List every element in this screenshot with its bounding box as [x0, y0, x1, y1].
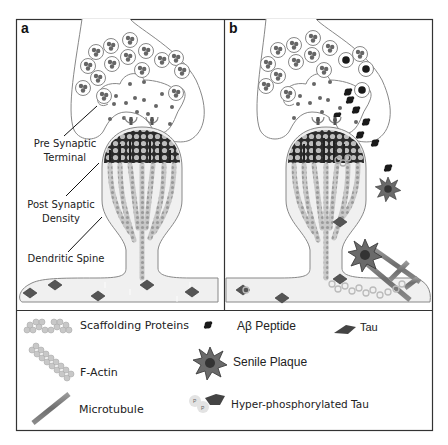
legend-scaffolding-proteins: Scaffolding Proteins — [80, 319, 189, 332]
dendritic-spine-label: Dendritic Spine — [24, 252, 108, 266]
pre-synaptic-line2: Terminal — [24, 151, 106, 165]
legend-senile-plaque: Senile Plaque — [233, 355, 307, 369]
pre-synaptic-line1: Pre Synaptic — [24, 137, 106, 151]
legend-hyper-phosphorylated-tau: Hyper-phosphorylated Tau — [231, 398, 369, 410]
legend-tau: Tau — [360, 321, 378, 333]
post-synaptic-density-label: Post Synaptic Density — [20, 198, 102, 226]
legend-f-actin: F-Actin — [80, 366, 118, 379]
post-synaptic-line2: Density — [20, 212, 102, 226]
panel-b — [226, 19, 430, 303]
panel-label-b: b — [229, 20, 238, 36]
pre-synaptic-terminal-label: Pre Synaptic Terminal — [24, 137, 106, 165]
panel-label-a: a — [21, 20, 29, 36]
legend-microtubule: Microtubule — [79, 403, 144, 416]
post-synaptic-line1: Post Synaptic — [20, 198, 102, 212]
legend-abeta-peptide: Aβ Peptide — [237, 319, 296, 333]
